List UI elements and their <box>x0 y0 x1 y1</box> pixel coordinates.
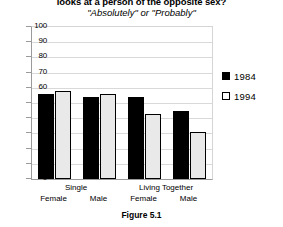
x-axis-category-label: Female <box>121 194 166 203</box>
y-axis-tick <box>26 56 31 57</box>
legend-swatch-1994 <box>222 92 230 100</box>
legend-item-1984: 1984 <box>222 66 256 86</box>
chart-legend: 1984 1994 <box>222 66 256 106</box>
legend-label-1994: 1994 <box>234 91 256 102</box>
y-axis-tick <box>26 41 31 42</box>
x-axis-group-label: Single <box>31 183 121 192</box>
chart-title: looks at a person of the opposite sex? <box>0 0 283 7</box>
y-axis-tick <box>26 26 31 27</box>
legend-label-1984: 1984 <box>234 71 256 82</box>
y-axis-tick <box>26 178 31 179</box>
bar-group <box>77 27 122 179</box>
bar-1994-Female-0 <box>55 91 71 179</box>
y-axis-tick <box>26 148 31 149</box>
legend-item-1994: 1994 <box>222 86 256 106</box>
bar-1984-Male-1 <box>83 97 99 179</box>
x-axis-category-label: Female <box>31 194 76 203</box>
x-axis-group-label: Living Together <box>121 183 211 192</box>
y-axis-tick <box>26 132 31 133</box>
y-axis-tick <box>26 117 31 118</box>
bar-1984-Male-3 <box>173 111 189 179</box>
bar-1984-Female-0 <box>38 94 54 179</box>
chart-subtitle: "Absolutely" or "Probably" <box>0 7 283 18</box>
bar-group <box>122 27 167 179</box>
legend-swatch-1984 <box>222 72 230 80</box>
chart-container: looks at a person of the opposite sex? "… <box>0 0 283 227</box>
bar-1994-Male-1 <box>100 94 116 179</box>
bar-1994-Male-3 <box>190 132 206 179</box>
bar-1994-Female-2 <box>145 114 161 179</box>
y-axis-tick <box>26 72 31 73</box>
bar-group <box>167 27 212 179</box>
figure-caption: Figure 5.1 <box>0 210 283 220</box>
y-axis-tick <box>26 87 31 88</box>
bar-group <box>32 27 77 179</box>
bars-layer <box>32 27 212 179</box>
x-axis-category-label: Male <box>166 194 211 203</box>
y-axis-tick <box>26 102 31 103</box>
x-axis: FemaleMaleFemaleMaleSingleLiving Togethe… <box>31 183 213 211</box>
bar-1984-Female-2 <box>128 97 144 179</box>
y-axis-tick <box>26 163 31 164</box>
x-axis-category-label: Male <box>76 194 121 203</box>
